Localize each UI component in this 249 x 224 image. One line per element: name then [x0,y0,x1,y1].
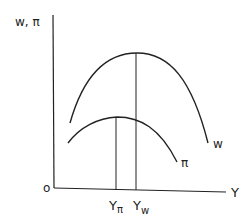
y-axis [53,15,54,188]
x-axis-label: Y [230,185,239,200]
marker-w-sub: w [141,205,149,216]
marker-pi-label: Yπ [108,198,123,215]
curve-pi-label: π [181,156,188,170]
curve-w-label: w [213,137,223,151]
marker-w-main: Y [132,198,141,213]
diagram-canvas: w, π Y o w π Yπ Yw [0,0,249,224]
x-axis [54,188,226,192]
marker-pi-main: Y [108,198,117,213]
curve-w [70,53,208,143]
marker-pi-sub: π [117,204,123,215]
curve-pi [68,117,177,162]
marker-w-label: Yw [132,198,149,216]
y-axis-label: w, π [15,15,40,29]
origin-label: o [43,181,50,195]
